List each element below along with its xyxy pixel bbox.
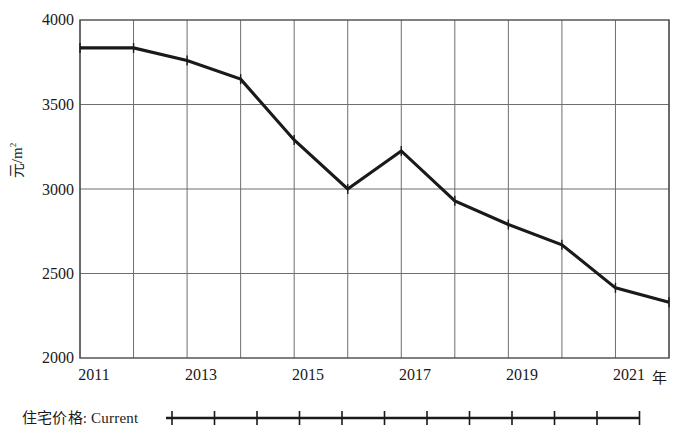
line-chart: 元/m2 4000 3500 3000 2500 2000 2011 2013 … <box>0 0 682 436</box>
data-point-markers <box>80 43 669 307</box>
chart-legend: 住宅价格: Current <box>22 402 644 430</box>
legend-line-sample <box>164 406 644 426</box>
horizontal-gridlines <box>80 105 669 274</box>
plot-area <box>0 0 682 400</box>
data-series-line <box>80 48 669 302</box>
legend-label: 住宅价格: Current <box>22 406 138 427</box>
